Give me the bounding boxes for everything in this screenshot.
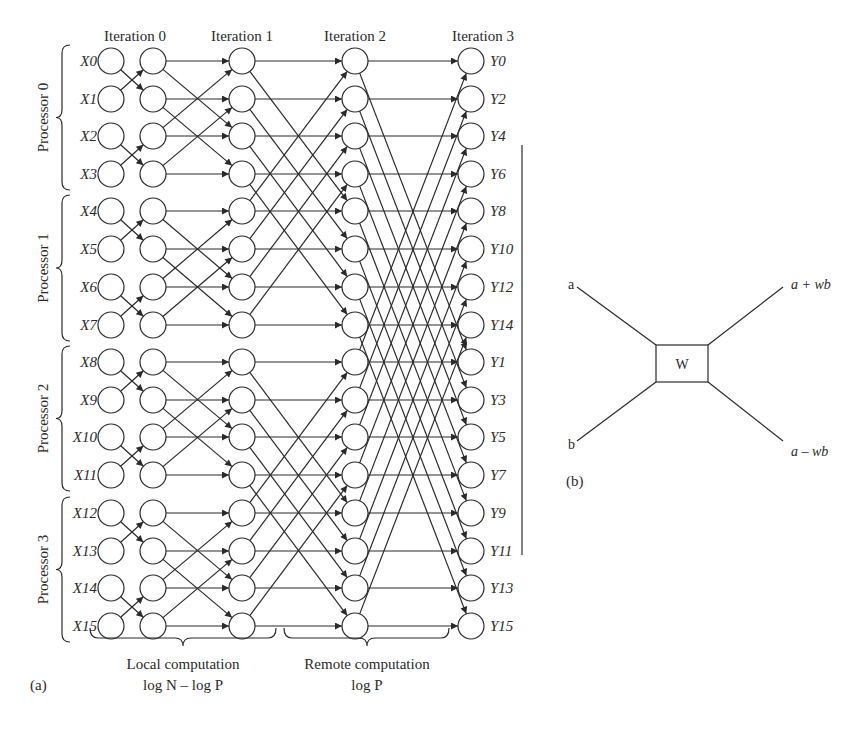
iteration-0-label: Iteration 0	[104, 28, 166, 44]
input-label: X10	[72, 429, 98, 445]
node-circle	[342, 462, 368, 488]
node-circle	[229, 86, 255, 112]
input-label: X4	[79, 203, 97, 219]
remote-computation-label: Remote computation	[304, 656, 430, 672]
node-circle	[342, 198, 368, 224]
node-circle	[458, 236, 484, 262]
node-circle	[458, 387, 484, 413]
output-sum-label: a + wb	[791, 277, 831, 292]
output-label: Y3	[490, 392, 506, 408]
node-circle	[229, 538, 255, 564]
node-circle	[140, 48, 166, 74]
processor-label: Processor 1	[35, 233, 51, 303]
input-label: X2	[79, 128, 97, 144]
butterfly-nodes	[98, 48, 484, 639]
node-circle	[458, 424, 484, 450]
node-circle	[98, 500, 124, 526]
panel-b-label: (b)	[566, 473, 584, 490]
remote-computation-formula: log P	[351, 677, 382, 693]
node-circle	[98, 198, 124, 224]
processor-brace	[56, 195, 70, 341]
node-circle	[98, 538, 124, 564]
node-circle	[98, 349, 124, 375]
node-circle	[98, 236, 124, 262]
iteration-3-label: Iteration 3	[452, 28, 514, 44]
node-circle	[98, 86, 124, 112]
node-circle	[140, 462, 166, 488]
node-circle	[140, 575, 166, 601]
processor-brace	[56, 45, 70, 190]
node-circle	[342, 538, 368, 564]
node-circle	[229, 462, 255, 488]
node-circle	[229, 387, 255, 413]
node-circle	[140, 86, 166, 112]
output-label: Y1	[490, 354, 506, 370]
node-circle	[98, 424, 124, 450]
output-label: Y6	[490, 166, 506, 182]
node-circle	[140, 538, 166, 564]
node-circle	[229, 349, 255, 375]
node-circle	[140, 123, 166, 149]
output-label: Y11	[490, 543, 512, 559]
output-label: Y8	[490, 203, 506, 219]
node-circle	[98, 274, 124, 300]
node-circle	[458, 274, 484, 300]
node-circle	[98, 48, 124, 74]
output-label: Y4	[490, 128, 506, 144]
node-circle	[458, 349, 484, 375]
processor-label: Processor 3	[35, 535, 51, 605]
output-label: Y15	[490, 618, 514, 634]
output-label: Y2	[490, 91, 506, 107]
node-circle	[458, 48, 484, 74]
node-circle	[140, 613, 166, 639]
node-circle	[342, 387, 368, 413]
node-circle	[342, 123, 368, 149]
node-circle	[98, 312, 124, 338]
node-circle	[458, 312, 484, 338]
node-circle	[229, 312, 255, 338]
node-circle	[458, 86, 484, 112]
node-circle	[458, 538, 484, 564]
output-label: Y12	[490, 279, 514, 295]
node-circle	[140, 198, 166, 224]
node-circle	[342, 500, 368, 526]
output-label: Y10	[490, 241, 514, 257]
processor-brace	[56, 497, 70, 642]
output-label: Y0	[490, 53, 506, 69]
input-b-label: b	[568, 437, 575, 452]
input-label: X0	[79, 53, 97, 69]
node-circle	[140, 500, 166, 526]
node-circle	[229, 236, 255, 262]
processor-label: Processor 2	[35, 384, 51, 454]
input-label: X11	[73, 467, 97, 483]
output-label: Y5	[490, 429, 506, 445]
input-label: X12	[72, 505, 98, 521]
processor-label: Processor 0	[35, 83, 51, 153]
node-circle	[98, 387, 124, 413]
node-circle	[458, 161, 484, 187]
node-circle	[342, 424, 368, 450]
node-circle	[140, 274, 166, 300]
input-label: X13	[72, 543, 97, 559]
butterfly-edges	[121, 61, 467, 626]
input-label: X9	[79, 392, 97, 408]
input-label: X6	[79, 279, 97, 295]
node-circle	[98, 123, 124, 149]
processor-brace	[56, 346, 70, 491]
node-circle	[229, 613, 255, 639]
node-circle	[342, 161, 368, 187]
node-circle	[458, 575, 484, 601]
output-label: Y13	[490, 580, 513, 596]
node-circle	[140, 387, 166, 413]
input-label: X5	[79, 241, 97, 257]
node-circle	[342, 312, 368, 338]
output-labels: Y0Y2Y4Y6Y8Y10Y12Y14Y1Y3Y5Y7Y9Y11Y13Y15	[490, 53, 514, 634]
node-circle	[140, 312, 166, 338]
node-circle	[458, 462, 484, 488]
fft-butterfly-figure: Iteration 0 Iteration 1 Iteration 2 Iter…	[0, 0, 863, 735]
input-labels: X0X1X2X3X4X5X6X7X8X9X10X11X12X13X14X15	[72, 53, 99, 634]
node-circle	[229, 424, 255, 450]
iteration-2-label: Iteration 2	[324, 28, 386, 44]
node-circle	[140, 349, 166, 375]
node-circle	[98, 462, 124, 488]
